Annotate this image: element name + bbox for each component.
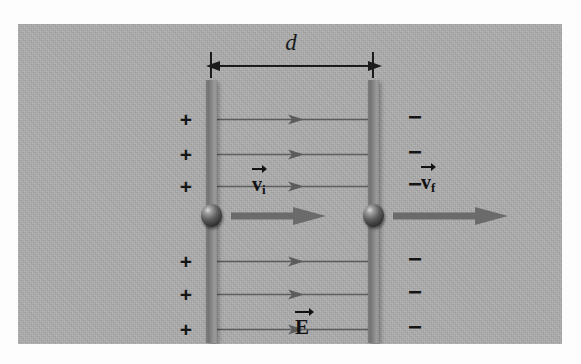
velocity-initial-glyph: v	[252, 174, 262, 194]
dimension-arrow-d	[204, 58, 384, 74]
charge-sign-plus-1: +	[173, 109, 199, 130]
charge-sign-plus-4: +	[173, 251, 199, 272]
velocity-initial-arrow	[231, 206, 327, 226]
charged-particle-initial	[201, 204, 222, 227]
figure-root: d + + +	[0, 0, 581, 364]
field-line-3	[206, 180, 374, 193]
field-line-4	[206, 255, 374, 268]
field-line-6	[206, 323, 374, 336]
field-line-1	[206, 113, 374, 126]
charge-sign-minus-6: −	[402, 316, 428, 337]
dimension-label-d: d	[273, 30, 309, 56]
velocity-final-arrow	[393, 206, 509, 226]
charged-particle-final	[363, 204, 384, 227]
velocity-initial-subscript: i	[262, 182, 266, 197]
field-line-5	[206, 288, 374, 301]
diagram-panel: d + + +	[18, 24, 562, 344]
charge-sign-minus-5: −	[402, 281, 428, 302]
electric-field-label: E	[295, 317, 309, 338]
charge-sign-minus-4: −	[402, 248, 428, 269]
charge-sign-minus-2: −	[402, 141, 428, 162]
velocity-final-subscript: f	[431, 180, 435, 195]
charge-sign-plus-5: +	[173, 284, 199, 305]
velocity-initial-label: vi	[252, 174, 266, 198]
charge-sign-plus-2: +	[173, 144, 199, 165]
velocity-final-label: vf	[421, 172, 435, 196]
velocity-final-glyph: v	[421, 172, 431, 192]
charge-sign-plus-6: +	[173, 319, 199, 340]
charge-sign-minus-1: −	[402, 106, 428, 127]
field-line-2	[206, 148, 374, 161]
charge-sign-plus-3: +	[173, 176, 199, 197]
electric-field-glyph: E	[295, 317, 309, 337]
